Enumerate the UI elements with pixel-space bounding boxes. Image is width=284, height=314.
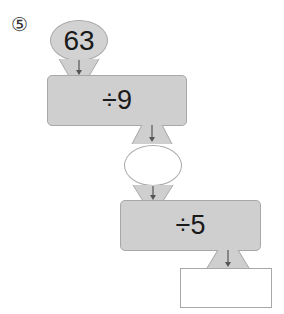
divide-by-9-box: ÷9	[47, 75, 187, 126]
arrow-down-icon	[132, 124, 172, 146]
start-value-oval: 63	[50, 20, 108, 61]
divide-by-5-box: ÷5	[120, 200, 261, 251]
final-answer-box[interactable]	[180, 268, 272, 308]
problem-number-label: ⑤	[11, 15, 28, 35]
intermediate-answer-oval[interactable]	[124, 145, 182, 186]
arrow-down-icon	[207, 249, 249, 269]
